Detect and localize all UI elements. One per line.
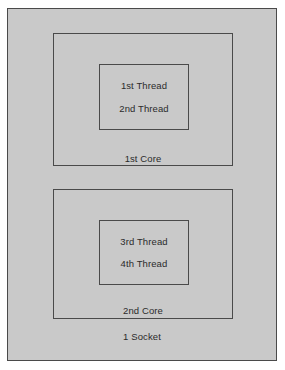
- thread-box-1: 1st Thread 2nd Thread: [99, 64, 189, 130]
- cpu-topology-diagram: 1st Thread 2nd Thread 1st Core 3rd Threa…: [0, 0, 285, 370]
- core-box-1: 1st Thread 2nd Thread 1st Core: [53, 33, 233, 166]
- core-label-1st: 1st Core: [54, 153, 232, 164]
- socket-box: 1st Thread 2nd Thread 1st Core 3rd Threa…: [7, 8, 277, 361]
- thread-label-2nd: 2nd Thread: [119, 103, 168, 114]
- core-label-2nd: 2nd Core: [54, 305, 232, 316]
- thread-label-4th: 4th Thread: [121, 258, 168, 269]
- thread-label-1st: 1st Thread: [121, 80, 167, 91]
- socket-label: 1 Socket: [8, 331, 276, 342]
- thread-box-2: 3rd Thread 4th Thread: [99, 220, 189, 285]
- thread-label-3rd: 3rd Thread: [120, 236, 167, 247]
- core-box-2: 3rd Thread 4th Thread 2nd Core: [53, 189, 233, 319]
